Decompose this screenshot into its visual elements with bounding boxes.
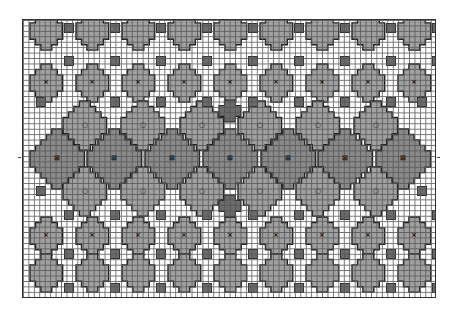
x-symbol-icon: × xyxy=(272,232,280,240)
top-plain-row-motif xyxy=(306,19,339,50)
dark-square xyxy=(36,186,47,197)
dark-square xyxy=(294,97,305,108)
x-symbol-icon: × xyxy=(42,232,50,240)
dark-square xyxy=(386,283,397,294)
dark-square xyxy=(432,210,436,221)
dark-square xyxy=(110,249,121,260)
bottom-plain-row-motif xyxy=(122,254,155,292)
dark-square xyxy=(110,97,121,108)
circle-symbol-icon: ○ xyxy=(81,188,89,196)
top-plain-row-motif xyxy=(398,19,431,50)
dark-square xyxy=(202,210,213,221)
x-symbol-icon: × xyxy=(88,232,96,240)
dark-square xyxy=(248,210,259,221)
left-center-tick xyxy=(18,157,21,158)
dark-square xyxy=(248,97,259,108)
circle-symbol-icon: ○ xyxy=(81,122,89,130)
x-symbol-icon: × xyxy=(180,79,188,87)
bottom-plain-row-motif xyxy=(76,254,109,292)
dark-square xyxy=(294,283,305,294)
x-symbol-icon: × xyxy=(364,232,372,240)
dark-square xyxy=(248,56,259,67)
stitch-chart: ×××××××××○○○○○○⊠⊠⊠⊠⊠⊠⊠○○○○○○××××××××× xyxy=(22,19,436,298)
dark-square xyxy=(248,23,259,34)
x-symbol-icon: × xyxy=(226,79,234,87)
x-symbol-icon: × xyxy=(318,232,326,240)
boxed-x-symbol-icon: ⊠ xyxy=(168,155,176,163)
dark-square xyxy=(110,283,121,294)
x-symbol-icon: × xyxy=(272,79,280,87)
circle-symbol-icon: ○ xyxy=(198,188,206,196)
dark-square xyxy=(202,97,213,108)
dark-square xyxy=(156,283,167,294)
top-plain-row-motif xyxy=(168,19,201,50)
dark-square xyxy=(202,283,213,294)
dark-square xyxy=(110,23,121,34)
boxed-x-symbol-icon: ⊠ xyxy=(341,155,349,163)
dark-square xyxy=(432,23,436,34)
boxed-x-symbol-icon: ⊠ xyxy=(226,155,234,163)
circle-symbol-icon: ○ xyxy=(314,122,322,130)
dark-square xyxy=(202,249,213,260)
dark-square xyxy=(432,283,436,294)
circle-symbol-icon: ○ xyxy=(314,188,322,196)
dark-square xyxy=(64,23,75,34)
circle-symbol-icon: ○ xyxy=(372,188,380,196)
dark-square xyxy=(156,97,167,108)
dark-square xyxy=(386,97,397,108)
dark-square xyxy=(386,23,397,34)
circle-symbol-icon: ○ xyxy=(256,122,264,130)
dark-square xyxy=(202,56,213,67)
dark-square xyxy=(386,56,397,67)
x-symbol-icon: × xyxy=(410,232,418,240)
circle-symbol-icon: ○ xyxy=(372,122,380,130)
x-symbol-icon: × xyxy=(88,79,96,87)
x-symbol-icon: × xyxy=(134,79,142,87)
dark-square xyxy=(248,249,259,260)
bottom-plain-row-motif xyxy=(214,254,247,292)
x-symbol-icon: × xyxy=(410,79,418,87)
bottom-plain-row-motif xyxy=(352,254,385,292)
circle-symbol-icon: ○ xyxy=(198,122,206,130)
dark-square xyxy=(156,210,167,221)
bottom-plain-row-motif xyxy=(306,254,339,292)
top-plain-row-motif xyxy=(260,19,293,50)
dark-square xyxy=(294,249,305,260)
dark-square xyxy=(64,56,75,67)
boxed-x-symbol-icon: ⊠ xyxy=(284,155,292,163)
bottom-plain-row-motif xyxy=(168,254,201,292)
bottom-plain-row-motif xyxy=(398,254,431,292)
dark-square xyxy=(386,210,397,221)
boxed-x-symbol-icon: ⊠ xyxy=(110,155,118,163)
dark-square xyxy=(294,210,305,221)
dark-square xyxy=(294,23,305,34)
top-plain-row-motif xyxy=(214,19,247,50)
dark-square xyxy=(340,283,351,294)
dark-square xyxy=(64,283,75,294)
dark-square xyxy=(432,56,436,67)
dark-square xyxy=(340,210,351,221)
center-dark-cross xyxy=(219,100,241,122)
dark-square xyxy=(386,249,397,260)
dark-square xyxy=(340,56,351,67)
dark-square xyxy=(64,249,75,260)
bottom-plain-row-motif xyxy=(30,254,63,292)
x-symbol-icon: × xyxy=(318,79,326,87)
dark-square xyxy=(248,283,259,294)
bottom-plain-row-motif xyxy=(260,254,293,292)
boxed-x-symbol-icon: ⊠ xyxy=(399,155,407,163)
circle-symbol-icon: ○ xyxy=(139,188,147,196)
dark-square xyxy=(340,97,351,108)
top-plain-row-motif xyxy=(30,19,63,50)
dark-square xyxy=(202,23,213,34)
dark-square xyxy=(156,23,167,34)
boxed-x-symbol-icon: ⊠ xyxy=(53,155,61,163)
right-center-tick xyxy=(437,157,440,158)
center-dark-cross xyxy=(219,195,241,217)
dark-square xyxy=(432,249,436,260)
dark-square xyxy=(156,56,167,67)
dark-square xyxy=(417,186,428,197)
dark-square xyxy=(417,97,428,108)
dark-square xyxy=(110,56,121,67)
x-symbol-icon: × xyxy=(180,232,188,240)
